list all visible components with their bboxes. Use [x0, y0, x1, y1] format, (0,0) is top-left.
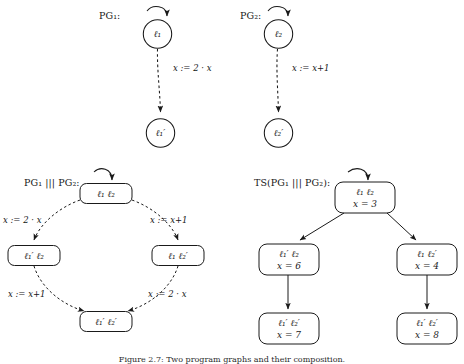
comp-edge-label-bottom-left: x := x+1 [8, 290, 46, 299]
figure-caption: Figure 2.7: Two program graphs and their… [0, 355, 464, 364]
pg1-node-l1-prime-circle [146, 119, 174, 147]
ts-node-left-box [259, 244, 319, 275]
ts-node-right-leaf-box [397, 313, 457, 344]
comp-initial-arrow [94, 169, 112, 180]
transition-system-graph [259, 169, 457, 344]
transition-system-title: TS(PG₁ ||| PG₂): [254, 178, 330, 188]
ts-node-root-box [335, 182, 395, 213]
pg2-node-l2-prime-circle [264, 119, 292, 147]
pg1-initial-arrow [147, 7, 167, 16]
comp-node-top-box [80, 184, 132, 204]
pg1-transition-edge [157, 49, 160, 112]
pg2-edge-label: x := x+1 [292, 64, 330, 73]
figure-container: PG₁: PG₂: PG₁ ||| PG₂: TS(PG₁ ||| PG₂): … [0, 0, 464, 364]
ts-initial-arrow [348, 169, 368, 180]
pg2-graph [264, 7, 292, 148]
comp-node-bottom-box [80, 312, 132, 332]
ts-edge-root-left [300, 213, 344, 240]
pg2-initial-arrow [268, 7, 288, 16]
ts-node-right-box [397, 244, 457, 275]
pg1-edge-label: x := 2 · x [173, 64, 212, 73]
composition-title: PG₁ ||| PG₂: [24, 178, 80, 188]
composition-graph [8, 169, 204, 332]
pg2-node-l2-circle [264, 20, 292, 48]
comp-edge-label-bottom-right: x := 2 · x [148, 290, 187, 299]
pg1-graph [143, 7, 174, 148]
ts-edge-root-right [387, 213, 416, 240]
comp-node-left-box [8, 246, 60, 266]
comp-edge-label-top-left: x := 2 · x [3, 216, 42, 225]
pg1-title: PG₁: [99, 11, 120, 21]
ts-node-left-leaf-box [259, 313, 319, 344]
comp-edge-label-top-right: x := x+1 [150, 216, 188, 225]
pg2-transition-edge [277, 49, 279, 112]
pg1-node-l1-circle [143, 20, 171, 48]
pg2-title: PG₂: [240, 11, 261, 21]
comp-node-right-box [152, 246, 204, 266]
